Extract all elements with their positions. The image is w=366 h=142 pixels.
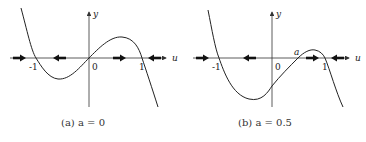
cubic-curve — [208, 10, 343, 107]
tick-label-neg1: -1 — [29, 62, 38, 72]
caption-a: (a) a = 0 — [61, 117, 105, 128]
flow-arrow-right — [113, 55, 126, 62]
panel-a: y u -1 0 1 (a) a = 0 — [10, 8, 178, 128]
tick-label-one: 1 — [139, 62, 145, 72]
flow-arrow-left — [331, 55, 344, 62]
y-axis-label: y — [92, 9, 99, 19]
tick-label-zero: 0 — [92, 62, 98, 72]
flow-arrow-left — [148, 55, 161, 62]
u-axis-label: u — [172, 53, 178, 63]
flow-arrow-left — [243, 55, 256, 62]
cubic-curve — [21, 8, 158, 107]
flow-arrow-right — [306, 55, 319, 62]
flow-arrow-right — [13, 55, 26, 62]
tick-label-neg1: -1 — [212, 62, 221, 72]
caption-b: (b) a = 0.5 — [238, 117, 292, 128]
flow-arrow-left — [53, 55, 66, 62]
u-axis-label: u — [355, 53, 361, 63]
flow-arrow-right — [196, 55, 209, 62]
a-root-label: a — [294, 47, 299, 57]
tick-label-one: 1 — [322, 62, 328, 72]
tick-label-zero: 0 — [275, 62, 281, 72]
panel-b: y u a -1 0 1 (b) a = 0.5 — [193, 9, 361, 128]
y-axis-label: y — [275, 9, 282, 19]
figure: y u -1 0 1 (a) a = 0 y — [0, 0, 366, 142]
